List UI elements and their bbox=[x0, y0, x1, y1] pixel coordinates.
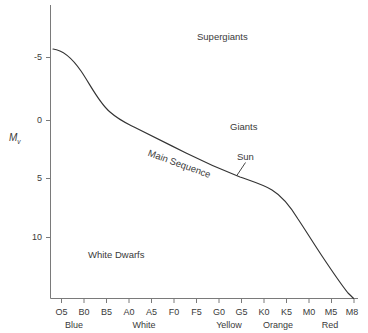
x-tick-label-B0: B0 bbox=[78, 308, 89, 317]
y-axis-title: Mv bbox=[9, 133, 21, 146]
x-tick-label-M0: M0 bbox=[303, 308, 316, 317]
x-tick-label-B5: B5 bbox=[101, 308, 112, 317]
y-tick-label-0: 0 bbox=[16, 116, 42, 125]
x-axis-ticks bbox=[62, 299, 355, 304]
y-tick-label-5: 5 bbox=[16, 174, 42, 183]
x-tick-label-A0: A0 bbox=[123, 308, 134, 317]
x-tick-label-M5: M5 bbox=[325, 308, 338, 317]
y-tick-label--5: -5 bbox=[16, 53, 42, 62]
x-tick-label-G5: G5 bbox=[235, 308, 247, 317]
x-color-label-yellow: Yellow bbox=[216, 321, 242, 330]
region-label-supergiants: Supergiants bbox=[197, 32, 248, 42]
region-label-giants: Giants bbox=[230, 122, 257, 132]
x-color-label-red: Red bbox=[322, 321, 339, 330]
x-tick-label-O5: O5 bbox=[55, 308, 67, 317]
annotation-label-sun: Sun bbox=[237, 152, 254, 162]
x-tick-label-G0: G0 bbox=[213, 308, 225, 317]
x-color-label-blue: Blue bbox=[65, 321, 83, 330]
x-tick-label-M8: M8 bbox=[346, 308, 359, 317]
x-tick-label-A5: A5 bbox=[146, 308, 157, 317]
region-label-white-dwarfs: White Dwarfs bbox=[88, 250, 144, 260]
x-tick-label-K5: K5 bbox=[281, 308, 292, 317]
x-color-label-white: White bbox=[132, 321, 155, 330]
x-tick-label-F0: F0 bbox=[169, 308, 180, 317]
x-tick-label-F5: F5 bbox=[191, 308, 202, 317]
sun-leader-line bbox=[237, 163, 246, 177]
x-color-label-orange: Orange bbox=[263, 321, 293, 330]
x-tick-label-K0: K0 bbox=[258, 308, 269, 317]
y-axis-title-sub: v bbox=[17, 138, 20, 145]
y-tick-label-10: 10 bbox=[16, 233, 42, 242]
hr-diagram: Mv -5 0 5 10 O5 B0 B5 A0 A5 F0 F5 G0 G5 … bbox=[0, 0, 368, 333]
y-axis-ticks bbox=[46, 58, 51, 238]
